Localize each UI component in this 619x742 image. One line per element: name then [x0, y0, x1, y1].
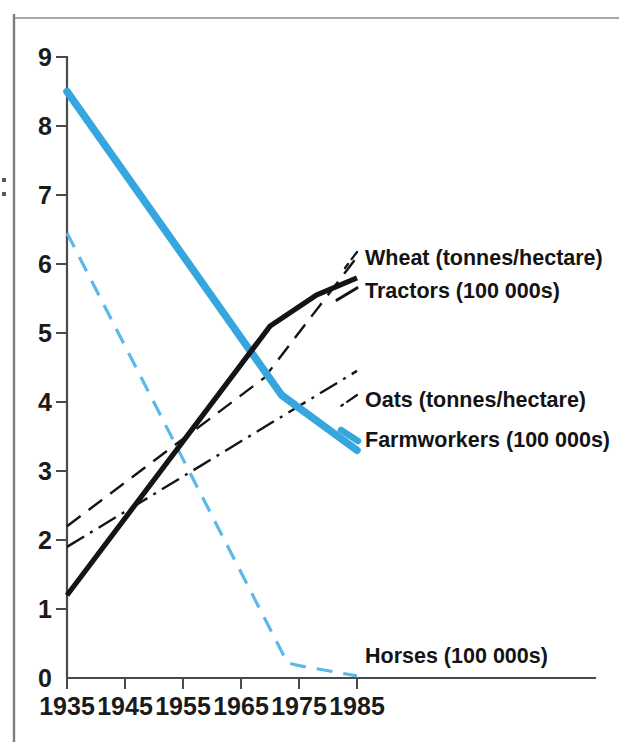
leader-oats — [341, 395, 357, 406]
y-axis-label-6: 6 — [38, 250, 52, 278]
y-axis-label-7: 7 — [38, 181, 52, 209]
series-line-tractors — [67, 278, 357, 595]
y-axis-label-0: 0 — [38, 664, 52, 692]
series-line-oats — [67, 371, 357, 547]
y-axis-label-5: 5 — [38, 319, 52, 347]
y-axis-label-4: 4 — [38, 388, 52, 416]
legend-label-farmworkers: Farmworkers (100 000s) — [365, 428, 610, 452]
y-axis-label-2: 2 — [38, 526, 52, 554]
x-axis-label-1975: 1975 — [271, 692, 327, 720]
legend-label-oats: Oats (tonnes/hectare) — [365, 388, 586, 412]
line-chart-plot: 9 8 7 6 5 4 3 2 1 0 1935 1945 1955 1965 … — [0, 0, 619, 742]
chart-axes — [67, 57, 595, 678]
y-axis-label-3: 3 — [38, 457, 52, 485]
legend-label-wheat: Wheat (tonnes/hectare) — [365, 246, 603, 270]
x-axis-label-1945: 1945 — [97, 692, 153, 720]
y-axis-label-1: 1 — [38, 595, 52, 623]
legend-label-horses: Horses (100 000s) — [365, 644, 548, 668]
legend-label-tractors: Tractors (100 000s) — [365, 279, 560, 303]
leader-tractors — [337, 288, 357, 300]
y-axis-label-8: 8 — [38, 112, 52, 140]
series-layer — [67, 92, 358, 676]
x-axis-label-1985: 1985 — [329, 692, 385, 720]
x-axis-label-1955: 1955 — [155, 692, 211, 720]
x-axis-label-1935: 1935 — [39, 692, 95, 720]
chart-figure: 9 8 7 6 5 4 3 2 1 0 1935 1945 1955 1965 … — [0, 0, 619, 742]
x-axis-label-1965: 1965 — [213, 692, 269, 720]
y-axis-label-9: 9 — [38, 43, 52, 71]
